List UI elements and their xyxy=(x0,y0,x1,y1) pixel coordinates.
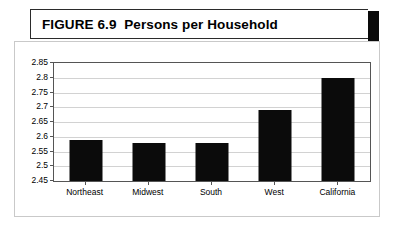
plot-wrapper: 2.852.82.752.72.652.62.552.52.45 Northea… xyxy=(53,62,371,182)
y-axis-tick-label: 2.6 xyxy=(36,132,48,141)
y-axis-tick-label: 2.65 xyxy=(31,117,48,126)
x-axis-tick-mark xyxy=(211,182,212,185)
y-axis-tick-label: 2.85 xyxy=(31,58,48,67)
x-axis-slot: South xyxy=(179,62,242,182)
y-axis-tick-label: 2.8 xyxy=(36,73,48,82)
y-axis-tick-label: 2.45 xyxy=(31,176,48,185)
figure-title-banner: FIGURE 6.9 Persons per Household xyxy=(30,9,368,39)
y-axis-tick-label: 2.55 xyxy=(31,146,48,155)
x-axis-tick-label: Midwest xyxy=(132,188,163,197)
y-axis-tick-label: 2.5 xyxy=(36,161,48,170)
chart-frame: 2.852.82.752.72.652.62.552.52.45 Northea… xyxy=(14,41,380,217)
x-axis-slot: Midwest xyxy=(116,62,179,182)
x-axis-tick-label: California xyxy=(319,188,355,197)
x-axis-tick-label: South xyxy=(200,188,222,197)
x-axis-tick-label: West xyxy=(265,188,284,197)
x-axis-slot: California xyxy=(306,62,369,182)
x-axis-tick-mark xyxy=(337,182,338,185)
y-axis-tick-label: 2.7 xyxy=(36,102,48,111)
y-axis-tick-label: 2.75 xyxy=(31,87,48,96)
x-axis-tick-label: Northeast xyxy=(66,188,103,197)
x-axis-slot: West xyxy=(243,62,306,182)
x-axis-tick-mark xyxy=(148,182,149,185)
x-axis-slot: Northeast xyxy=(53,62,116,182)
x-axis-tick-mark xyxy=(274,182,275,185)
x-axis-tick-mark xyxy=(85,182,86,185)
title-end-marker xyxy=(368,11,379,41)
page-title: FIGURE 6.9 Persons per Household xyxy=(31,17,278,32)
